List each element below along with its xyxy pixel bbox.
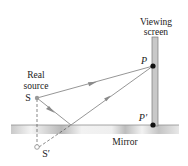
point-p-label: P <box>140 55 147 66</box>
point-p <box>150 63 155 68</box>
lloyds-mirror-diagram: Viewing screen Real source S S′ P P′ Mir… <box>0 0 188 166</box>
image-source-label: S′ <box>42 148 50 159</box>
point-p-prime <box>150 122 155 127</box>
image-source-point <box>35 145 40 150</box>
arrow-icon <box>88 82 97 86</box>
viewing-screen <box>152 37 158 126</box>
incident-ray <box>37 98 71 125</box>
screen-label-line1: Viewing <box>140 17 172 27</box>
mirror-label: Mirror <box>112 137 138 147</box>
source-s-label: S <box>25 92 31 103</box>
direct-ray <box>37 66 153 98</box>
source-point <box>35 96 39 100</box>
source-label-line2: source <box>24 81 49 91</box>
screen-label-line2: screen <box>144 27 169 37</box>
arrow-icon <box>46 106 55 113</box>
source-label-line1: Real <box>27 70 45 80</box>
point-p-prime-label: P′ <box>138 112 148 123</box>
